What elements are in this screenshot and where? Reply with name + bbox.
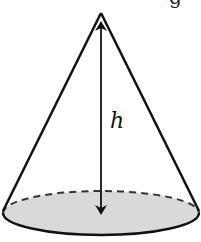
cropped-caption-text: g	[0, 0, 201, 9]
cone-drawing	[0, 0, 201, 242]
cone-left-side	[3, 13, 101, 211]
cone-diagram: g h	[0, 0, 201, 242]
height-label: h	[110, 110, 124, 132]
